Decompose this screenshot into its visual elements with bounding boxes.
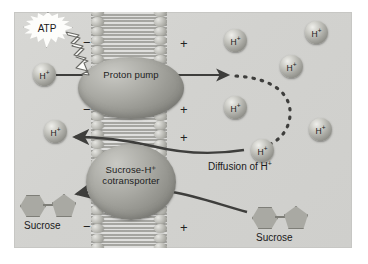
sucrose-label: Sucrose bbox=[24, 220, 61, 231]
diffusion-label-sup: + bbox=[268, 160, 272, 167]
glucose-hexagon-icon bbox=[252, 207, 278, 229]
cotransporter-protein[interactable]: Sucrose-H⁺ cotransporter bbox=[86, 144, 176, 220]
ion-charge: + bbox=[264, 145, 268, 152]
h-ion-cytosol-2: H+ bbox=[44, 120, 67, 143]
fructose-pentagon-icon bbox=[52, 194, 76, 217]
fructose-pentagon-icon bbox=[284, 206, 308, 229]
cotransporter-label-line1: Sucrose-H⁺ bbox=[86, 164, 176, 175]
ion-symbol: H+ bbox=[231, 35, 241, 47]
proton-pump-protein[interactable]: Proton pump bbox=[78, 57, 184, 119]
ion-charge: + bbox=[237, 35, 241, 42]
h-ion-outside-4: H+ bbox=[224, 96, 247, 119]
arrow-h-into-cell bbox=[75, 137, 244, 153]
energy-bolt-icon bbox=[62, 30, 92, 76]
ion-symbol: H+ bbox=[316, 124, 326, 136]
cotransporter-label: Sucrose-H⁺ cotransporter bbox=[86, 164, 176, 186]
ion-symbol: H+ bbox=[287, 61, 297, 73]
ion-symbol: H+ bbox=[258, 145, 268, 157]
ion-symbol: H+ bbox=[40, 69, 50, 81]
h-ion-outside-1: H+ bbox=[224, 29, 247, 52]
diffusion-label: Diffusion of H+ bbox=[208, 160, 272, 172]
ion-symbol: H+ bbox=[312, 27, 322, 39]
ion-charge: + bbox=[46, 69, 50, 76]
sucrose-label: Sucrose bbox=[256, 232, 293, 243]
h-ion-outside-5: H+ bbox=[309, 118, 332, 141]
figure-root: −−−−++++ Proton pump Sucrose-H⁺ cotransp… bbox=[0, 0, 368, 264]
ion-charge: + bbox=[237, 102, 241, 109]
sucrose-molecule-icon bbox=[20, 192, 76, 218]
ion-charge: + bbox=[293, 61, 297, 68]
glucose-hexagon-icon bbox=[20, 195, 46, 217]
ion-symbol: H+ bbox=[51, 126, 61, 138]
diffusion-label-text: Diffusion of H bbox=[208, 161, 268, 172]
h-ion-outside-2: H+ bbox=[305, 21, 328, 44]
h-ion-outside-3: H+ bbox=[280, 55, 303, 78]
ion-charge: + bbox=[57, 126, 61, 133]
ion-charge: + bbox=[318, 27, 322, 34]
sucrose-molecule-icon bbox=[252, 204, 308, 230]
ion-charge: + bbox=[322, 124, 326, 131]
cotransporter-label-line2: cotransporter bbox=[86, 175, 176, 186]
h-ion-outside-6: H+ bbox=[251, 139, 274, 162]
h-ion-cytosol-1: H+ bbox=[33, 63, 56, 86]
ion-symbol: H+ bbox=[231, 102, 241, 114]
proton-pump-label: Proton pump bbox=[78, 69, 184, 80]
